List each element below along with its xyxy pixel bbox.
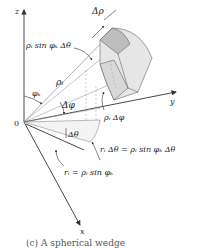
phi-k-label: φₖ	[32, 89, 41, 98]
y-axis-label: y	[169, 97, 175, 106]
radius-eq-label: rᵢ = ρᵢ sin φₖ	[64, 168, 113, 177]
base-wedge	[24, 120, 100, 142]
radius-eq-pointer	[56, 150, 64, 166]
origin-label: 0	[14, 119, 19, 128]
rho-sin-phi-label: ρᵢ sin φₖ Δθ	[25, 41, 71, 50]
z-axis-label: z	[14, 7, 20, 16]
x-axis-label: x	[80, 227, 85, 236]
delta-theta-label: Δθ	[67, 130, 79, 139]
arc-eq-label: rᵢ Δθ = ρᵢ sin φₖ Δθ	[100, 145, 175, 154]
figure-caption: (c) A spherical wedge	[26, 238, 125, 248]
rho-sin-phi-pointer	[74, 48, 92, 60]
rho-delta-phi-pointer	[102, 92, 104, 110]
delta-phi-label: Δφ	[61, 100, 75, 110]
delta-rho-marker	[104, 10, 116, 20]
y-axis	[24, 92, 176, 122]
rho-delta-phi-label: ρᵢ Δφ	[103, 113, 125, 122]
delta-rho-label: Δρ	[91, 6, 104, 16]
arc-eq-pointer	[92, 142, 100, 160]
rho-i-label: ρᵢ	[55, 77, 63, 87]
